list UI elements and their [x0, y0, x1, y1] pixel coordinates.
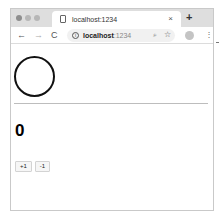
- counter-value: 0: [15, 121, 24, 141]
- circle-shape: [14, 56, 55, 97]
- browser-toolbar: ← → C i localhost:1234 ⌕ ☆ ⋮: [11, 27, 213, 44]
- profile-avatar[interactable]: [185, 31, 194, 40]
- decrement-button[interactable]: -1: [35, 161, 50, 172]
- close-tab-icon[interactable]: ×: [168, 14, 173, 23]
- increment-button[interactable]: +1: [15, 161, 32, 172]
- window-controls: [16, 15, 40, 21]
- tab-title: localhost:1234: [72, 16, 117, 23]
- new-tab-button[interactable]: +: [186, 11, 192, 24]
- url-host: localhost: [83, 32, 114, 39]
- forward-arrow-icon[interactable]: →: [34, 29, 43, 41]
- zoom-icon[interactable]: ⌕: [153, 31, 157, 39]
- horizontal-divider: [14, 103, 208, 104]
- close-window-button[interactable]: [16, 15, 22, 21]
- menu-dots-icon[interactable]: ⋮: [205, 29, 213, 41]
- back-arrow-icon[interactable]: ←: [17, 29, 26, 41]
- url-port: :1234: [114, 32, 132, 39]
- tab-bar: localhost:1234 × +: [11, 9, 213, 27]
- tab-localhost[interactable]: localhost:1234 ×: [52, 11, 181, 27]
- page-icon: [60, 15, 66, 23]
- url-text: localhost:1234: [83, 32, 131, 39]
- reload-icon[interactable]: C: [51, 29, 58, 41]
- decorative-dash: [216, 42, 219, 43]
- info-icon[interactable]: i: [72, 32, 79, 39]
- minimize-window-button[interactable]: [25, 15, 31, 21]
- maximize-window-button[interactable]: [34, 15, 40, 21]
- bookmark-star-icon[interactable]: ☆: [164, 30, 171, 39]
- page-content: 0 +1 -1: [11, 45, 213, 211]
- address-bar[interactable]: i localhost:1234 ⌕ ☆: [67, 29, 175, 42]
- browser-window: localhost:1234 × + ← → C i localhost:123…: [10, 8, 214, 211]
- counter-buttons: +1 -1: [15, 161, 50, 172]
